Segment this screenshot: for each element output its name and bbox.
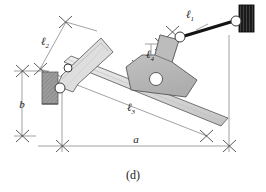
mechanism-diagram-svg: ℓ1 ℓ2 ℓ3 ℓ4 a b (d): [0, 0, 266, 192]
joint-A: [55, 83, 65, 93]
label-l1: ℓ1: [186, 8, 194, 23]
figure-caption: (d): [126, 168, 140, 182]
joint-D: [231, 16, 241, 26]
mechanism-figure: ℓ1 ℓ2 ℓ3 ℓ4 a b (d): [0, 0, 266, 192]
joint-C: [175, 32, 185, 42]
coupler-link-l1: [181, 21, 234, 37]
body-center-hole: [150, 73, 163, 86]
label-l3: ℓ3: [127, 101, 136, 116]
slider-block: [239, 5, 254, 32]
label-a: a: [133, 133, 139, 145]
tick-l2-top: [59, 16, 72, 28]
label-l2: ℓ2: [41, 35, 50, 50]
joint-B: [64, 64, 72, 72]
label-b: b: [19, 98, 25, 110]
tick-l3-end: [200, 130, 213, 142]
ternary-body: [126, 35, 197, 97]
